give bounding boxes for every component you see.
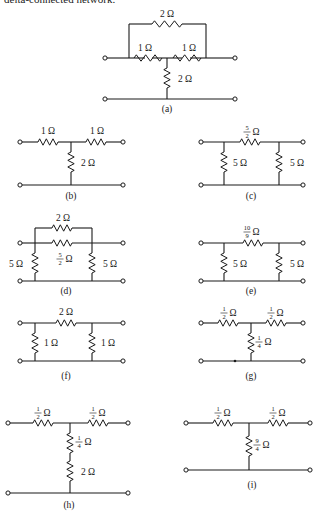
resistor: 2 Ω <box>68 152 95 172</box>
diagram-caption: (e) <box>246 286 257 297</box>
resistor: 5 Ω <box>221 152 247 172</box>
diagram-caption: (i) <box>248 480 257 491</box>
resistor-label: 1 Ω <box>44 338 58 348</box>
circuit-a: 2 Ω1 Ω1 Ω2 Ω(a) <box>103 9 237 115</box>
fraction-numerator: 10 <box>244 224 251 231</box>
ohm-symbol: Ω <box>278 408 285 418</box>
resistor: 5 Ω <box>89 253 117 273</box>
circuit-h: 12Ω12Ω14Ω2 Ω(h) <box>6 405 130 511</box>
diagram-caption: (b) <box>65 191 76 202</box>
resistor-symbol-icon <box>213 420 233 426</box>
terminal-node-icon <box>184 468 188 472</box>
resistor-symbol-icon <box>268 420 288 426</box>
ohm-symbol: Ω <box>264 337 271 347</box>
fraction-denominator: 4 <box>255 445 259 452</box>
resistor: 12Ω <box>268 405 288 426</box>
resistor-label: 1 Ω <box>41 126 55 136</box>
terminal-node-icon <box>103 56 107 60</box>
resistor-label: 5 Ω <box>9 259 23 269</box>
terminal-node-icon <box>18 241 22 245</box>
circuit-g: 12Ω12Ω14Ω(g) <box>199 305 305 382</box>
fraction-numerator: 5 <box>245 124 248 131</box>
terminal-node-icon <box>121 279 125 283</box>
resistor: 2 Ω <box>52 213 72 231</box>
resistor-label: 5 Ω <box>233 158 247 168</box>
terminal-node-icon <box>6 421 10 425</box>
fraction-numerator: 9 <box>255 437 258 444</box>
resistor: 5 Ω <box>276 152 304 172</box>
resistor-symbol-icon <box>89 333 95 353</box>
resistor-symbol-icon <box>88 420 108 426</box>
resistor-label: 5 Ω <box>290 158 304 168</box>
resistor-symbol-icon <box>52 225 72 231</box>
ohm-symbol: Ω <box>65 254 72 264</box>
resistor-symbol-icon <box>173 55 201 61</box>
resistor-label: 2 Ω <box>81 467 95 477</box>
resistor-label: 1 Ω <box>101 338 115 348</box>
terminal-node-icon <box>199 183 203 187</box>
resistor-label: 5 Ω <box>290 259 304 269</box>
resistor: 5 Ω <box>9 253 38 273</box>
resistor: 14Ω <box>248 333 272 353</box>
resistor-symbol-icon <box>152 21 182 27</box>
resistor: 52Ω <box>52 240 73 266</box>
terminal-node-icon <box>18 359 22 363</box>
resistor: 12Ω <box>88 405 108 426</box>
fraction-numerator: 1 <box>36 405 39 412</box>
circuit-e: 109Ω5 Ω5 Ω(e) <box>199 224 305 297</box>
fraction-denominator: 2 <box>222 313 225 320</box>
resistor-symbol-icon <box>218 320 238 326</box>
terminal-node-icon <box>301 279 305 283</box>
fraction-denominator: 2 <box>269 313 272 320</box>
terminal-node-icon <box>233 56 237 60</box>
resistor-symbol-icon <box>89 253 95 273</box>
resistor-label: 2 Ω <box>56 213 70 223</box>
terminal-node-icon <box>301 321 305 325</box>
terminal-node-icon <box>126 421 130 425</box>
resistor: 94Ω <box>246 436 270 456</box>
resistor-symbol-icon <box>56 320 76 326</box>
resistor: 2 Ω <box>164 68 192 88</box>
resistor-symbol-icon <box>67 433 73 453</box>
ohm-symbol: Ω <box>223 408 230 418</box>
diagram-caption: (a) <box>162 104 173 115</box>
fraction-numerator: 1 <box>216 405 219 412</box>
terminal-node-icon <box>308 468 312 472</box>
fraction-denominator: 9 <box>245 232 248 239</box>
circuit-diagrams: 2 Ω1 Ω1 Ω2 Ω(a)1 Ω1 Ω2 Ω(b)52Ω5 Ω5 Ω(c)2… <box>0 0 320 518</box>
resistor-symbol-icon <box>38 139 58 145</box>
resistor: 109Ω <box>243 224 263 246</box>
resistor-symbol-icon <box>246 436 252 456</box>
diagram-caption: (f) <box>61 371 71 382</box>
terminal-node-icon <box>184 421 188 425</box>
resistor-symbol-icon <box>86 139 106 145</box>
terminal-node-icon <box>121 359 125 363</box>
resistor-symbol-icon <box>164 68 170 88</box>
resistor: 2 Ω <box>152 9 182 27</box>
fraction-denominator: 2 <box>216 413 219 420</box>
resistor-label: 2 Ω <box>81 158 95 168</box>
terminal-node-icon <box>199 241 203 245</box>
resistor: 14Ω <box>67 433 92 453</box>
resistor-label: 5 Ω <box>103 259 117 269</box>
terminal-node-icon <box>18 140 22 144</box>
resistor-symbol-icon <box>32 333 38 353</box>
terminal-node-icon <box>121 241 125 245</box>
fraction-denominator: 2 <box>245 132 248 139</box>
fraction-numerator: 1 <box>257 334 260 341</box>
terminal-node-icon <box>301 241 305 245</box>
ohm-symbol: Ω <box>262 440 269 450</box>
resistor-label: 2 Ω <box>178 74 192 84</box>
terminal-node-icon <box>199 140 203 144</box>
terminal-node-icon <box>301 183 305 187</box>
terminal-node-icon <box>301 140 305 144</box>
fraction-numerator: 1 <box>269 305 272 312</box>
resistor-symbol-icon <box>33 420 53 426</box>
terminal-node-icon <box>121 321 125 325</box>
resistor-label: 2 Ω <box>59 307 73 317</box>
resistor-symbol-icon <box>240 139 260 145</box>
resistor: 5 Ω <box>276 253 304 273</box>
terminal-node-icon <box>199 321 203 325</box>
fraction-denominator: 2 <box>36 413 39 420</box>
ohm-symbol: Ω <box>252 127 259 137</box>
